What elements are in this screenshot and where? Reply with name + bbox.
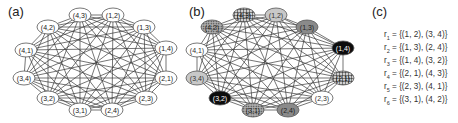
legend-row-r3: r3 = {(1, 4), (3, 2)} bbox=[384, 56, 447, 69]
node-1-4: (1,4) bbox=[155, 41, 177, 55]
node-3-4: (3,4) bbox=[13, 71, 35, 85]
node-label: (2,3) bbox=[315, 95, 329, 103]
node-1-2: (1,2) bbox=[102, 8, 124, 22]
edge bbox=[26, 48, 166, 50]
node-2-3: (2,3) bbox=[311, 91, 333, 105]
legend-row-r2: r2 = {(1, 3), (2, 4)} bbox=[384, 43, 447, 56]
node-label: (2,4) bbox=[281, 107, 295, 115]
node-label: (4,3) bbox=[73, 12, 87, 20]
node-2-4: (2,4) bbox=[277, 103, 299, 117]
graph-a: (4,3)(1,2)(1,3)(1,4)(2,1)(2,3)(2,4)(3,1)… bbox=[13, 8, 177, 117]
node-1-3: (1,3) bbox=[296, 20, 318, 34]
node-label: (4,1) bbox=[19, 47, 33, 55]
node-label: (2,4) bbox=[105, 107, 119, 115]
node-1-4: (1,4) bbox=[332, 41, 354, 55]
edge bbox=[112, 15, 113, 110]
legend-row-r6: r6 = {(3, 1), (4, 2)} bbox=[384, 95, 447, 108]
node-label: (3,4) bbox=[190, 75, 204, 83]
node-label: (4,1) bbox=[190, 47, 204, 55]
legend-row-r1: r1 = {(1, 2), (3, 4)} bbox=[384, 30, 447, 43]
node-3-2: (3,2) bbox=[37, 91, 59, 105]
node-label: (1,3) bbox=[300, 24, 314, 32]
node-label: (3,2) bbox=[41, 95, 55, 103]
node-label: (2,1) bbox=[159, 75, 173, 83]
node-3-4: (3,4) bbox=[186, 71, 208, 85]
legend-row-r5: r5 = {(2, 3), (4, 1)} bbox=[384, 82, 447, 95]
node-2-1: (2,1) bbox=[332, 71, 354, 85]
node-3-2: (3,2) bbox=[209, 91, 231, 105]
node-label: (3,4) bbox=[17, 75, 31, 83]
node-4-3: (4,3) bbox=[69, 8, 91, 22]
node-label: (1,2) bbox=[269, 12, 283, 20]
graph-b: (4,3)(1,2)(1,3)(1,4)(2,1)(2,3)(2,4)(3,1)… bbox=[186, 8, 354, 117]
node-label: (1,4) bbox=[336, 45, 350, 53]
edge bbox=[212, 27, 343, 48]
node-label: (1,4) bbox=[159, 45, 173, 53]
node-2-3: (2,3) bbox=[135, 91, 157, 105]
node-label: (1,3) bbox=[137, 24, 151, 32]
node-label: (2,3) bbox=[139, 95, 153, 103]
node-label: (1,2) bbox=[106, 12, 120, 20]
node-label: (4,2) bbox=[41, 24, 55, 32]
edge bbox=[26, 15, 113, 50]
node-1-2: (1,2) bbox=[265, 8, 287, 22]
node-label: (2,1) bbox=[336, 75, 350, 83]
node-2-4: (2,4) bbox=[101, 103, 123, 117]
node-label: (3,1) bbox=[73, 107, 87, 115]
node-3-1: (3,1) bbox=[242, 103, 264, 117]
edge bbox=[212, 27, 343, 78]
legend-row-r4: r4 = {(2, 1), (4, 3)} bbox=[384, 69, 447, 82]
node-4-2: (4,2) bbox=[37, 20, 59, 34]
node-1-3: (1,3) bbox=[133, 20, 155, 34]
node-4-2: (4,2) bbox=[201, 20, 223, 34]
node-3-1: (3,1) bbox=[69, 103, 91, 117]
node-4-1: (4,1) bbox=[15, 43, 37, 57]
node-label: (4,2) bbox=[205, 24, 219, 32]
node-4-3: (4,3) bbox=[233, 8, 255, 22]
node-label: (3,1) bbox=[246, 107, 260, 115]
node-2-1: (2,1) bbox=[155, 71, 177, 85]
legend-panel-c: r1 = {(1, 2), (3, 4)} r2 = {(1, 3), (2, … bbox=[384, 30, 447, 108]
node-label: (3,2) bbox=[213, 95, 227, 103]
node-label: (4,3) bbox=[237, 12, 251, 20]
node-4-1: (4,1) bbox=[186, 43, 208, 57]
